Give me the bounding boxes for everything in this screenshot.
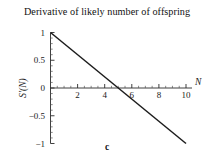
- y-tick-label: 1: [41, 28, 46, 38]
- x-tick-label: 2: [75, 90, 80, 100]
- x-tick-label: 10: [182, 90, 192, 100]
- x-tick-label: 4: [102, 90, 107, 100]
- y-tick-label: 0.5: [34, 55, 46, 65]
- x-tick-label: 8: [157, 90, 162, 100]
- figure-container: Derivative of likely number of offspring…: [0, 0, 214, 164]
- y-tick-label: −0.5: [29, 111, 46, 121]
- line-chart: 24681010.50−0.5−1 NS'(N): [0, 0, 214, 164]
- x-axis-label: N: [194, 77, 202, 87]
- panel-caption: c: [0, 142, 214, 152]
- y-tick-label: 0: [41, 83, 46, 93]
- y-axis-label: S'(N): [18, 78, 29, 97]
- axis-names-group: NS'(N): [18, 77, 202, 98]
